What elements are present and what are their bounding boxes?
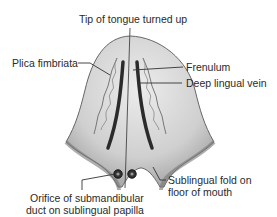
tongue-body bbox=[66, 36, 214, 187]
label-sublingual-fold-1: Sublingual fold on bbox=[168, 174, 251, 186]
label-frenulum: Frenulum bbox=[186, 61, 230, 73]
label-sublingual-fold-2: floor of mouth bbox=[168, 186, 232, 198]
label-tip: Tip of tongue turned up bbox=[79, 13, 187, 25]
label-orifice-2: duct on sublingual papilla bbox=[26, 204, 144, 216]
label-deep-lingual-vein: Deep lingual vein bbox=[186, 77, 267, 89]
label-orifice-1: Orifice of submandibular bbox=[30, 192, 144, 204]
label-plica-fimbriata: Plica fimbriata bbox=[12, 57, 78, 69]
